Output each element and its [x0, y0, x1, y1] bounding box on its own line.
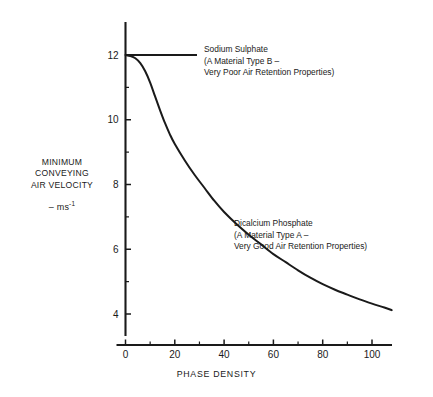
y-tick-label: 12 [107, 50, 119, 61]
y-axis-units-base: ms [57, 202, 69, 212]
y-axis-title-line-2: CONVEYING [10, 168, 114, 179]
annotation-dicalcium-line-1: Dicalcium Phosphate [234, 218, 367, 230]
y-axis-title: MINIMUM CONVEYING AIR VELOCITY – ms-1 [10, 157, 114, 214]
annotation-sodium-line-3: Very Poor Air Retention Properties) [204, 67, 334, 79]
x-tick-label: 0 [123, 349, 129, 360]
chart-figure: 4681012020406080100 MINIMUM CONVEYING AI… [0, 0, 433, 397]
annotation-dicalcium-phosphate: Dicalcium Phosphate (A Material Type A –… [234, 218, 367, 253]
x-tick-label: 60 [268, 349, 280, 360]
ticks-group [126, 55, 373, 345]
y-axis-units-prefix: – [49, 202, 57, 212]
annotation-sodium-sulphate: Sodium Sulphate (A Material Type B – Ver… [204, 44, 334, 79]
x-tick-label: 20 [169, 349, 181, 360]
annotation-dicalcium-line-3: Very Good Air Retention Properties) [234, 241, 367, 253]
data-series-group [126, 55, 392, 310]
y-tick-label: 10 [107, 114, 119, 125]
x-tick-label: 80 [317, 349, 329, 360]
x-tick-label: 40 [219, 349, 231, 360]
y-axis-title-line-1: MINIMUM [10, 157, 114, 168]
x-axis-title: PHASE DENSITY [0, 369, 433, 379]
annotation-sodium-line-2: (A Material Type B – [204, 56, 334, 68]
y-axis-units-exponent: -1 [69, 200, 75, 207]
x-tick-label: 100 [364, 349, 381, 360]
y-tick-label: 4 [113, 309, 119, 320]
tick-labels-group: 4681012020406080100 [107, 50, 380, 360]
annotation-dicalcium-line-2: (A Material Type A – [234, 230, 367, 242]
y-axis-units: – ms-1 [10, 202, 114, 213]
y-tick-label: 6 [113, 244, 119, 255]
annotation-sodium-line-1: Sodium Sulphate [204, 44, 334, 56]
y-axis-title-line-3: AIR VELOCITY [10, 180, 114, 191]
series-curve-dicalcium-phosphate [126, 55, 392, 310]
